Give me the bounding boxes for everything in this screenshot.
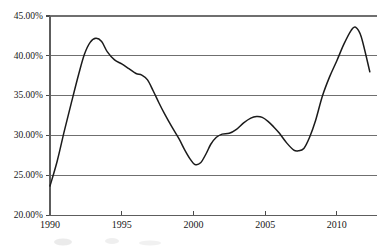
y-axis-tick-label: 35.00% [14, 90, 43, 100]
y-axis-tick-label: 25.00% [14, 170, 43, 180]
y-axis-tick-label: 45.00% [14, 11, 43, 21]
chart-canvas: 45.00%40.00%35.00%30.00%25.00%20.00% 199… [0, 0, 385, 246]
x-axis-tick-label: 1995 [112, 219, 132, 230]
line-chart: 45.00%40.00%35.00%30.00%25.00%20.00% 199… [0, 0, 385, 246]
y-axis-tick-label: 30.00% [14, 130, 43, 140]
x-axis-tick-label: 1990 [40, 219, 60, 230]
chart-background [0, 0, 385, 246]
y-axis-tick-label: 20.00% [14, 210, 43, 220]
x-axis-tick-label: 2010 [327, 219, 347, 230]
x-axis-tick-label: 2005 [255, 219, 275, 230]
y-axis-tick-label: 40.00% [14, 51, 43, 61]
x-axis-tick-label: 2000 [183, 219, 203, 230]
